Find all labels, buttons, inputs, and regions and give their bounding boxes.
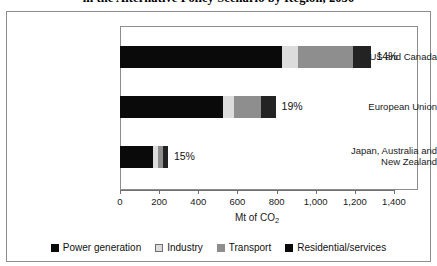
x-axis-tick [277,190,278,194]
chart-figure: in the Alternative Policy Scenario by Re… [0,0,437,266]
bar-segment-industry [223,96,234,118]
x-axis-tick-label: 1,000 [304,196,328,207]
bar-segment-transport [234,96,261,118]
legend-swatch-icon [155,244,163,252]
x-axis-title-subscript: 2 [275,216,279,225]
x-axis-tick-label: 800 [269,196,285,207]
bar-segment-residential-services [163,146,168,168]
x-axis-tick-label: 400 [190,196,206,207]
legend-swatch-icon [217,244,225,252]
x-axis-line [120,190,394,191]
chart-title: in the Alternative Policy Scenario by Re… [0,0,437,5]
bar-segment-transport [298,46,353,68]
x-axis-tick [316,190,317,194]
x-axis-title-text: Mt of CO [235,212,275,223]
x-axis-tick-label: 1,400 [382,196,406,207]
category-label-japan-australia-new-zealand: Japan, Australia and New Zealand [329,145,437,167]
x-axis-tick [394,190,395,194]
legend-swatch-icon [51,244,59,252]
legend-item[interactable]: Industry [155,242,203,253]
bar-percent-label: 14% [377,50,398,62]
x-axis-title: Mt of CO2 [120,212,394,223]
x-axis-tick [237,190,238,194]
category-label-european-union: European Union [329,101,437,112]
bar-segment-residential-services [261,96,276,118]
x-axis-tick-label: 200 [151,196,167,207]
chart-legend: Power generationIndustryTransportResiden… [6,242,431,253]
legend-item-label: Transport [229,242,271,253]
x-axis-tick [159,190,160,194]
legend-swatch-icon [285,244,293,252]
x-axis-tick [198,190,199,194]
legend-item[interactable]: Residential/services [285,242,386,253]
legend-item-label: Residential/services [297,242,386,253]
x-axis-tick [355,190,356,194]
x-axis-tick-label: 1,200 [343,196,367,207]
legend-item[interactable]: Power generation [51,242,141,253]
x-axis-tick-label: 0 [117,196,122,207]
bar-segment-power-generation [120,96,223,118]
bar-segment-power-generation [120,146,153,168]
legend-item[interactable]: Transport [217,242,271,253]
bar-percent-label: 19% [282,100,303,112]
x-axis-tick [120,190,121,194]
bar-segment-power-generation [120,46,282,68]
bar-segment-industry [282,46,298,68]
bar-percent-label: 15% [174,150,195,162]
x-axis-tick-label: 600 [229,196,245,207]
bar-segment-residential-services [353,46,371,68]
legend-item-label: Power generation [63,242,141,253]
legend-item-label: Industry [167,242,203,253]
